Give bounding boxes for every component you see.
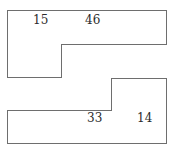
figure-canvas: 15 46 33 14	[0, 0, 173, 154]
dimension-label-top-left: 15	[33, 14, 49, 26]
dimension-label-bottom-left: 33	[87, 112, 103, 124]
dimension-label-bottom-right: 14	[137, 112, 153, 124]
dimension-label-top-right: 46	[85, 14, 101, 26]
